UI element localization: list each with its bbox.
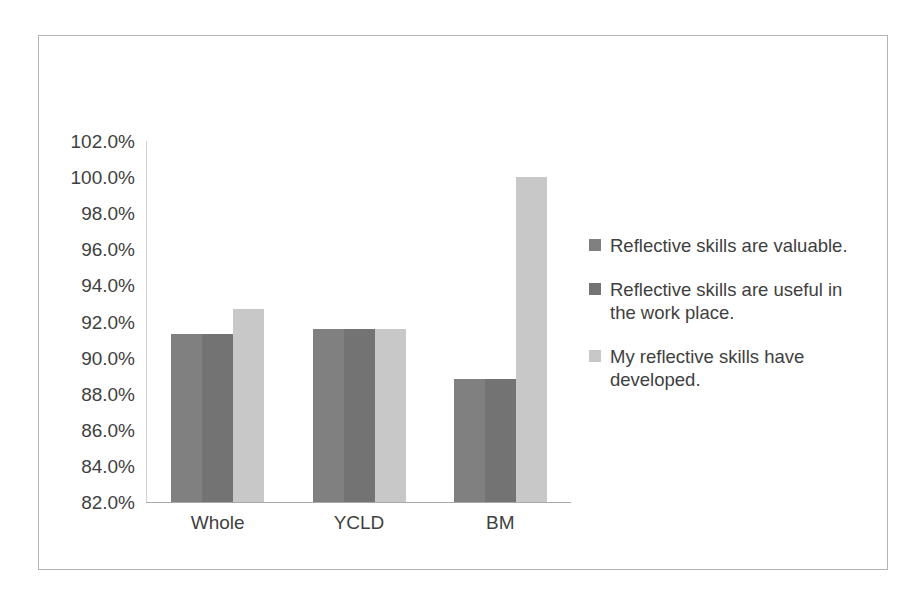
legend-swatch-icon [589,350,601,362]
y-axis-tick-label: 84.0% [49,457,135,476]
legend-label: Reflective skills are valuable. [610,234,848,257]
legend-label: Reflective skills are useful in the work… [610,278,855,324]
legend-label: My reflective skills have developed. [610,345,855,391]
legend-entry[interactable]: Reflective skills are valuable. [589,234,879,257]
bar [171,334,202,502]
y-axis-tick-label: 90.0% [49,349,135,368]
legend-entry[interactable]: Reflective skills are useful in the work… [589,278,879,324]
bar [202,334,233,502]
bar [313,329,344,502]
legend-swatch-icon [589,283,601,295]
bar [344,329,375,502]
chart-legend: Reflective skills are valuable.Reflectiv… [589,234,879,412]
bar [454,379,485,502]
y-axis-tick-label: 88.0% [49,385,135,404]
y-axis-tick-label: 100.0% [49,168,135,187]
y-axis-tick-label: 82.0% [49,493,135,512]
bars-layer [147,141,571,502]
y-axis-tick-label: 92.0% [49,313,135,332]
y-axis-tick-label: 102.0% [49,132,135,151]
legend-entry[interactable]: My reflective skills have developed. [589,345,879,391]
chart-frame: 102.0%100.0%98.0%96.0%94.0%92.0%90.0%88.… [38,35,888,570]
x-axis-line [146,502,571,503]
bar [485,379,516,502]
x-axis-tick-label: Whole [148,508,288,538]
legend-swatch-icon [589,239,601,251]
y-axis-tick-label: 86.0% [49,421,135,440]
bar [516,177,547,502]
bar-group-bm [454,141,547,502]
y-axis-tick-labels: 102.0%100.0%98.0%96.0%94.0%92.0%90.0%88.… [49,36,135,571]
x-axis-tick-label: BM [430,508,570,538]
x-axis-tick-label: YCLD [289,508,429,538]
bar [233,309,264,502]
y-axis-tick-label: 98.0% [49,204,135,223]
x-axis-tick-labels: WholeYCLDBM [147,508,571,542]
y-axis-tick-label: 96.0% [49,240,135,259]
bar-group-whole [171,141,264,502]
y-axis-tick-label: 94.0% [49,276,135,295]
bar [375,329,406,502]
bar-group-ycld [313,141,406,502]
